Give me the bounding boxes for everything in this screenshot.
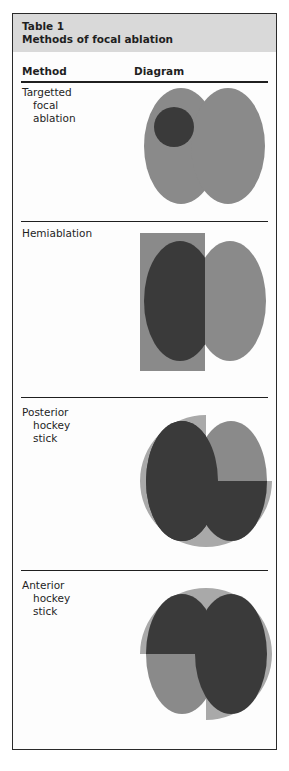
row-label-targetted-focal-ablation: Targetted focal ablation	[22, 86, 76, 125]
table-header: Table 1 Methods of focal ablation	[13, 14, 276, 52]
table-number: Table 1	[22, 20, 276, 33]
column-header-diagram: Diagram	[134, 65, 184, 77]
row-label-posterior-hockey-stick: Posterior hockey stick	[22, 406, 70, 445]
table-frame: Table 1 Methods of focal ablation Method…	[12, 13, 277, 750]
row-label-hemiablation: Hemiablation	[22, 227, 92, 240]
table-title: Methods of focal ablation	[22, 33, 276, 46]
diagram-targetted-focal-ablation	[140, 80, 270, 215]
column-header-method: Method	[22, 65, 67, 77]
row-divider	[21, 397, 268, 398]
diagram-anterior-hockey-stick	[140, 580, 280, 725]
row-label-anterior-hockey-stick: Anterior hockey stick	[22, 579, 70, 618]
diagram-posterior-hockey-stick	[140, 407, 280, 552]
row-divider	[21, 570, 268, 571]
row-divider	[21, 221, 268, 222]
diagram-hemiablation	[140, 233, 270, 373]
